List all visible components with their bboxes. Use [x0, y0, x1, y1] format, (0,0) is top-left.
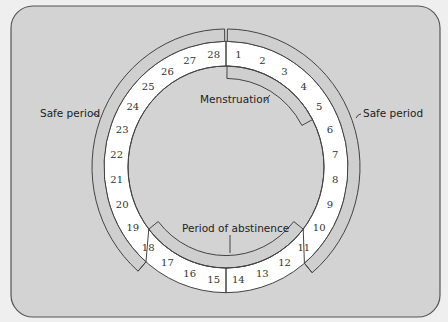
day-number: 8: [332, 174, 338, 185]
safe-period-right-label: Safe period: [363, 107, 423, 119]
day-number: 7: [332, 149, 338, 160]
day-number: 1: [235, 49, 241, 60]
abstinence-label: Period of abstinence: [182, 222, 289, 234]
day-number: 17: [161, 257, 174, 268]
day-number: 27: [183, 55, 196, 66]
day-number: 6: [327, 124, 333, 135]
day-number: 15: [207, 274, 220, 285]
day-number: 18: [142, 242, 155, 253]
day-number: 25: [142, 81, 155, 92]
day-number: 16: [183, 268, 196, 279]
day-number: 21: [110, 174, 123, 185]
day-number: 5: [316, 101, 322, 112]
day-number: 9: [327, 199, 333, 210]
day-number: 20: [116, 199, 129, 210]
menstruation-label: Menstruation: [200, 93, 269, 105]
day-number: 10: [313, 222, 326, 233]
day-number: 11: [297, 242, 310, 253]
day-number: 28: [207, 49, 220, 60]
day-number: 19: [126, 222, 139, 233]
cycle-diagram: 1234567891011121314151617181920212223242…: [0, 0, 448, 322]
day-number: 12: [278, 257, 291, 268]
day-number: 14: [232, 274, 245, 285]
day-number: 22: [110, 149, 123, 160]
day-number: 3: [281, 66, 287, 77]
day-number: 13: [256, 268, 269, 279]
day-number: 26: [161, 66, 174, 77]
day-number: 24: [126, 101, 139, 112]
day-number: 2: [259, 55, 265, 66]
safe-period-left-label: Safe period: [40, 107, 100, 119]
day-number: 4: [301, 81, 307, 92]
day-number: 23: [116, 124, 129, 135]
